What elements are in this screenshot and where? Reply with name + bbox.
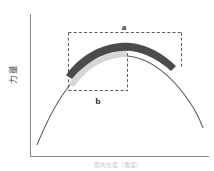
- annotation-label-b: b: [95, 96, 100, 106]
- y-axis-title: 力量: [6, 44, 18, 104]
- annotation-label-a: a: [122, 22, 127, 32]
- base-curve: [37, 56, 203, 145]
- x-axis-title: 肌肉长度（角度）: [30, 160, 205, 169]
- length-tension-chart: a b: [0, 0, 214, 171]
- figure-root: a b 力量 肌肉长度（角度）: [0, 0, 214, 171]
